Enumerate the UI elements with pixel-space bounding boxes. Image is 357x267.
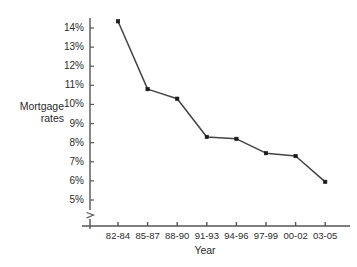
data-point-marker	[235, 137, 238, 140]
axes-group	[82, 18, 350, 229]
data-point-marker	[176, 97, 179, 100]
mortgage-rates-line-chart: Mortgage rates Year 14%13%12%11%10%9%8%7…	[0, 0, 357, 267]
y-axis-break-icon	[87, 213, 94, 219]
data-point-marker	[324, 180, 327, 183]
data-point-markers	[116, 20, 327, 184]
data-point-marker	[294, 154, 297, 157]
data-point-marker	[264, 151, 267, 154]
data-point-marker	[146, 87, 149, 90]
plot-area	[0, 0, 357, 267]
data-point-marker	[205, 135, 208, 138]
data-point-marker	[116, 20, 119, 23]
axis-ticks-group	[90, 28, 325, 226]
